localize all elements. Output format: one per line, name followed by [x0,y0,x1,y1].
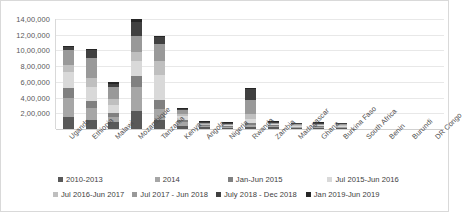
legend-item[interactable]: 2010-2013 [58,175,103,184]
bar-segment [131,36,142,52]
legend-item[interactable]: July 2018 - Dec 2018 [216,190,297,199]
x-label-slot: Rwanda [239,130,262,168]
bar-segment [131,52,142,61]
bar-slot [262,19,285,129]
y-axis-tick: 8,00,000 [20,62,50,71]
bar-slot [171,19,194,129]
bar-segment [154,61,165,75]
x-label-slot: Kenya [170,130,193,168]
bar-segment [86,78,97,87]
x-label-slot: Uganda [56,130,79,168]
legend: 2010-20132014Jan-Jun 2015Jul 2015-Jun 20… [1,169,450,211]
bar-segment [131,87,142,111]
bar-slot [239,19,262,129]
bar-segment [63,98,74,118]
bar-slot [421,19,444,129]
x-label-slot: South Africa [353,130,376,168]
bar-segment [63,65,74,72]
legend-swatch-icon [58,177,63,182]
stacked-bar[interactable] [63,46,74,129]
x-label-slot: Ethiopia [79,130,102,168]
legend-label: Jan-Jun 2015 [236,175,283,184]
bar-segment [86,87,97,101]
bar-segment [245,89,256,100]
x-label-slot: Angola [193,130,216,168]
bar-segment [108,105,119,114]
bar-slot [285,19,308,129]
x-label-slot: Nigeria [216,130,239,168]
bar-segment [63,50,74,65]
legend-row-2: Jul 2016-Jun 2017Jul 2017 - Jun 2018July… [1,187,450,202]
legend-swatch-icon [155,177,160,182]
bar-segment [154,44,165,61]
bar-segment [131,76,142,88]
bar-slot [57,19,80,129]
bar-slot [194,19,217,129]
bar-segment [63,88,74,97]
plot-wrapper: 14,00,00012,00,00010,00,0008,00,0006,00,… [1,1,450,136]
legend-label: July 2018 - Dec 2018 [224,190,297,199]
bar-segment [154,37,165,44]
x-label-slot: Ghana [307,130,330,168]
bar-slot [330,19,353,129]
bar-segment [86,101,97,108]
y-axis-tick: 10,00,000 [16,46,50,55]
x-label-slot: Madagascar [284,130,307,168]
x-label-slot: Mozambique [124,130,147,168]
x-axis-labels: UgandaEthiopiaMalawiMozambiqueTanzaniaKe… [56,130,444,168]
bar-slot [103,19,126,129]
x-label-slot: Benin [376,130,399,168]
bar-segment [154,75,165,99]
bar-slot [125,19,148,129]
bar-segment [86,58,97,78]
legend-swatch-icon [327,177,332,182]
y-axis-tick: 4,00,000 [20,93,50,102]
y-axis-tick: 2,00,000 [20,109,50,118]
legend-row-1: 2010-20132014Jan-Jun 2015Jul 2015-Jun 20… [1,172,450,187]
legend-item[interactable]: Jan 2019-Jun 2019 [306,190,380,199]
legend-label: Jul 2017 - Jun 2018 [140,190,208,199]
bar-segment [63,72,74,88]
bar-segment [131,22,142,36]
y-axis-tick: 12,00,000 [16,30,50,39]
bar-segment [245,100,256,114]
legend-label: Jul 2016-Jun 2017 [61,190,124,199]
legend-label: 2010-2013 [66,175,103,184]
bar-segment [86,50,97,58]
legend-item[interactable]: Jul 2015-Jun 2016 [327,175,398,184]
legend-swatch-icon [306,192,311,197]
legend-item[interactable]: Jan-Jun 2015 [228,175,283,184]
x-label-slot: Malawi [102,130,125,168]
bar-slot [398,19,421,129]
x-label-slot: Zambia [261,130,284,168]
legend-label: 2014 [163,175,180,184]
bar-slot [216,19,239,129]
legend-item[interactable]: Jul 2017 - Jun 2018 [132,190,208,199]
x-label-slot: Tanzania [147,130,170,168]
stacked-bar[interactable] [86,49,97,129]
legend-swatch-icon [228,177,233,182]
legend-item[interactable]: 2014 [155,175,180,184]
x-label-slot: DR Congo [421,130,444,168]
legend-label: Jul 2015-Jun 2016 [335,175,398,184]
y-axis-tick: 6,00,000 [20,77,50,86]
legend-swatch-icon [216,192,221,197]
legend-swatch-icon [53,192,58,197]
legend-label: Jan 2019-Jun 2019 [314,190,380,199]
x-label-slot: Burundi [398,130,421,168]
y-axis-tick: 14,00,000 [16,15,50,24]
legend-item[interactable]: Jul 2016-Jun 2017 [53,190,124,199]
bar-segment [131,61,142,76]
x-label-slot: Burkina Faso [330,130,353,168]
bar-segment [63,117,74,129]
stacked-bar[interactable] [131,19,142,129]
y-axis: 14,00,00012,00,00010,00,0008,00,0006,00,… [1,15,54,133]
bar-segment [108,87,119,99]
legend-swatch-icon [132,192,137,197]
bar-slot [80,19,103,129]
